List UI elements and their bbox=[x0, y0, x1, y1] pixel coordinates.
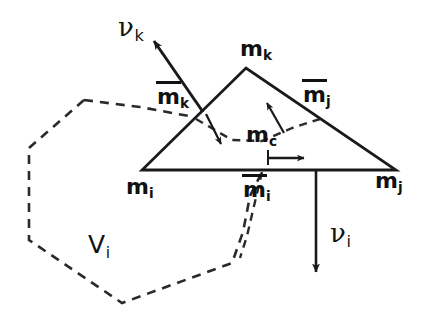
control-volume-polygon bbox=[29, 100, 262, 303]
midpoint-i-label: mi bbox=[243, 179, 270, 201]
normal-vector-k-label: νk bbox=[118, 14, 143, 40]
vertex-k-label: mk bbox=[240, 38, 271, 60]
control-volume-label: Vi bbox=[88, 232, 109, 257]
vertex-j-label: mj bbox=[375, 170, 402, 192]
midpoint-j-label: mj bbox=[303, 84, 330, 106]
centroid-label: mc bbox=[246, 124, 276, 146]
midpoint-k-label: mk bbox=[157, 86, 188, 108]
figure-canvas: νk mk mk mj mc mi mi mj νi Vi bbox=[0, 0, 428, 321]
midpoint-k-pointer-arrow bbox=[206, 114, 221, 144]
diagram-svg bbox=[0, 0, 428, 321]
vertex-i-label: mi bbox=[126, 176, 153, 198]
normal-vector-i-label: νi bbox=[330, 220, 350, 246]
